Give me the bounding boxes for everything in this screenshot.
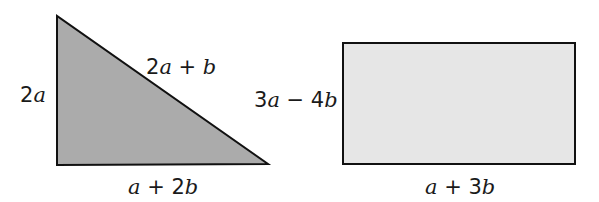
right-triangle (57, 16, 268, 165)
rectangle-base-label: a + 3b (425, 175, 495, 199)
diagram-canvas: 2a 2a + b a + 2b 3a − 4b a + 3b (0, 0, 599, 202)
rectangle-left-side-label: 3a − 4b (254, 88, 338, 112)
triangle-base-label: a + 2b (128, 175, 198, 199)
triangle-left-side-label: 2a (20, 83, 46, 107)
rectangle (343, 43, 575, 164)
triangle-hypotenuse-label: 2a + b (146, 55, 216, 79)
